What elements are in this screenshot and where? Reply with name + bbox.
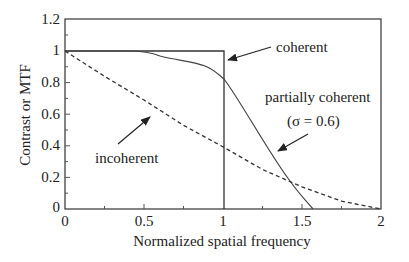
y-tick-label: 0.8 bbox=[30, 75, 60, 90]
arrow-partially-coherent-icon bbox=[278, 134, 308, 151]
x-tick-label: 0.5 bbox=[124, 214, 164, 229]
y-tick-label: 0.2 bbox=[30, 170, 60, 185]
y-tick-label: 1.2 bbox=[30, 12, 60, 27]
y-axis-title: Contrast or MTF bbox=[17, 64, 34, 166]
y-tick-label: 0.4 bbox=[30, 138, 60, 153]
x-tick-label: 2 bbox=[361, 214, 401, 229]
x-axis-title: Normalized spatial frequency bbox=[133, 233, 310, 250]
y-tick-label: 0 bbox=[30, 200, 60, 215]
arrow-coherent-icon bbox=[228, 47, 271, 60]
y-tick-label: 0.6 bbox=[30, 107, 60, 122]
series-coherent bbox=[65, 51, 224, 209]
y-ticks bbox=[65, 35, 70, 193]
annotation-sigma: (σ = 0.6) bbox=[287, 113, 340, 129]
x-tick-label: 1 bbox=[203, 214, 243, 229]
annotation-partially-coherent: partially coherent bbox=[265, 89, 370, 105]
y-tick-label: 1 bbox=[30, 43, 60, 58]
arrow-incoherent-icon bbox=[118, 117, 150, 144]
annotation-coherent: coherent bbox=[276, 39, 328, 55]
x-tick-label: 1.5 bbox=[282, 214, 322, 229]
x-tick-label: 0 bbox=[45, 214, 85, 229]
series-incoherent bbox=[65, 51, 381, 209]
annotation-incoherent: incoherent bbox=[95, 150, 158, 166]
x-ticks bbox=[105, 204, 342, 209]
